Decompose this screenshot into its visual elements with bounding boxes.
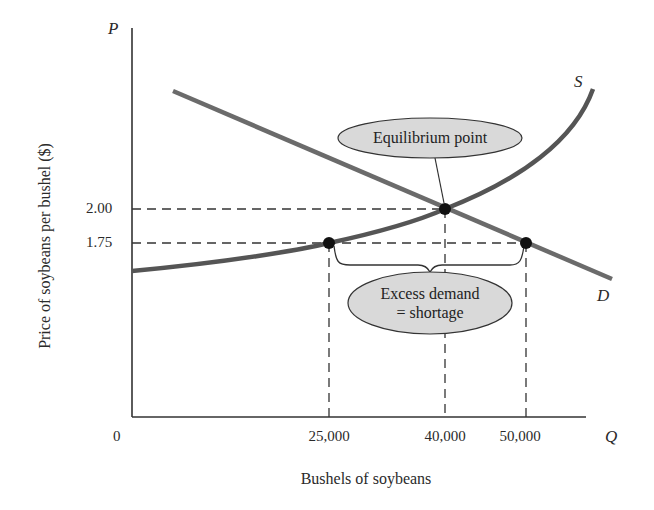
shortage-annotation-line2: = shortage	[348, 303, 512, 322]
shortage-brace	[334, 246, 524, 272]
y-tick-1-75: 1.75	[86, 234, 112, 251]
x-tick-25000: 25,000	[308, 428, 349, 445]
supply-label: S	[574, 72, 583, 92]
y-axis-title: Price of soybeans per bushel ($)	[36, 143, 54, 349]
shortage-annotation-line1: Excess demand	[348, 284, 512, 303]
equilibrium-dot	[439, 203, 451, 215]
x-axis-letter: Q	[605, 427, 617, 447]
y-axis-letter: P	[108, 19, 118, 39]
equilibrium-pointer	[435, 158, 444, 203]
x-tick-50000: 50,000	[499, 428, 540, 445]
supply-dot-25000	[323, 237, 335, 249]
demand-dot-50000	[520, 237, 532, 249]
equilibrium-annotation: Equilibrium point	[338, 128, 522, 147]
demand-label: D	[597, 286, 609, 306]
x-axis-title: Bushels of soybeans	[301, 470, 432, 488]
y-tick-2-00: 2.00	[86, 200, 112, 217]
origin-label: 0	[113, 428, 121, 445]
x-tick-40000: 40,000	[424, 428, 465, 445]
